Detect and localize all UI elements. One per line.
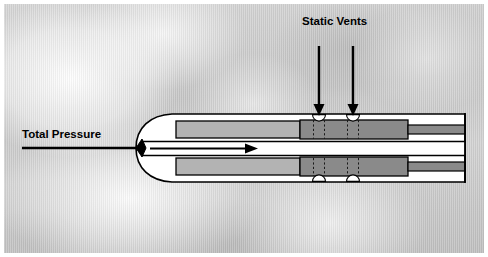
lower-chamber-tail-step [408, 162, 465, 171]
total-pressure-label: Total Pressure [22, 128, 101, 140]
lower-chamber-vent-band [300, 157, 408, 176]
pitot-static-tube-figure: Static Vents Total Pressure [0, 0, 488, 257]
upper-chamber-light-section [176, 121, 300, 138]
lower-chamber-light-section [176, 158, 300, 175]
static-vent-callout-arrows [314, 46, 359, 116]
upper-chamber-vent-band [300, 120, 408, 139]
upper-chamber-tail-step [408, 125, 465, 134]
static-vents-label: Static Vents [302, 15, 367, 27]
